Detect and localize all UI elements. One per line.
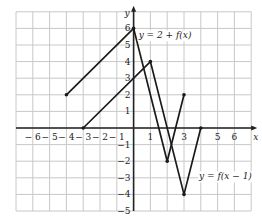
vertex-dot: [81, 126, 85, 130]
y-tick-label: −2: [117, 156, 130, 166]
y-tick-label: −1: [117, 140, 130, 150]
x-tick-label: − 4: [58, 132, 74, 142]
y-tick-label: 2: [125, 90, 131, 100]
vertex-dot: [165, 159, 169, 163]
y-tick-label: 5: [125, 40, 131, 50]
curve-label: y = f(x − 1): [198, 171, 252, 181]
vertex-dot: [65, 93, 69, 97]
vertex-dot: [132, 27, 136, 31]
x-tick-label: − 6: [25, 132, 41, 142]
x-tick-label: 6: [232, 132, 238, 142]
x-tick-label: − 5: [42, 132, 58, 142]
curve-label: y = 2 + f(x): [138, 30, 192, 40]
x-tick-label: 5: [215, 132, 221, 142]
y-tick-label: −3: [117, 173, 131, 183]
vertex-dot: [199, 126, 203, 130]
vertex-dot: [182, 93, 186, 97]
y-tick-label: −5: [117, 206, 131, 216]
x-tick-label: − 2: [92, 132, 108, 142]
y-tick-label: 4: [125, 57, 131, 67]
vertex-dot: [149, 60, 153, 64]
x-tick-label: − 3: [75, 132, 91, 142]
x-tick-label: 1: [148, 132, 154, 142]
x-axis-label: x: [253, 132, 258, 142]
y-tick-label: 1: [125, 106, 131, 116]
x-axis-arrow-icon: [251, 126, 257, 131]
y-axis-label: y: [124, 8, 131, 18]
vertex-dot: [182, 193, 186, 197]
x-tick-label: 3: [181, 132, 187, 142]
function-graph: xy− 6− 5− 4− 3− 2− 11356−5−4−3−2−1123456…: [0, 0, 262, 221]
y-tick-label: −4: [117, 189, 131, 199]
curve-labels: y = 2 + f(x)y = f(x − 1): [138, 30, 257, 182]
y-axis-arrow-icon: [131, 6, 136, 12]
